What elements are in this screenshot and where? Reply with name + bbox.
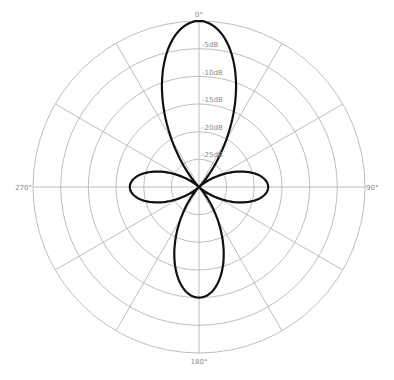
grid-spoke [199,43,282,187]
radial-label-20db: -20dB [202,124,223,132]
grid-spoke [116,43,199,187]
grid-spoke [199,187,282,331]
angle-label-0: 0° [195,11,203,19]
polar-chart: 0° 90° 180° 270° -5dB -10dB -15dB -20dB … [0,0,394,380]
radial-label-10db: -10dB [202,69,223,77]
radial-label-15db: -15dB [202,96,223,104]
radial-label-5db: -5dB [202,41,218,49]
angle-label-180: 180° [191,358,208,366]
angle-label-90: 90° [366,184,378,192]
grid-spoke [116,187,199,331]
radial-label-25db: -25dB [202,151,223,159]
angle-label-270: 270° [15,184,32,192]
